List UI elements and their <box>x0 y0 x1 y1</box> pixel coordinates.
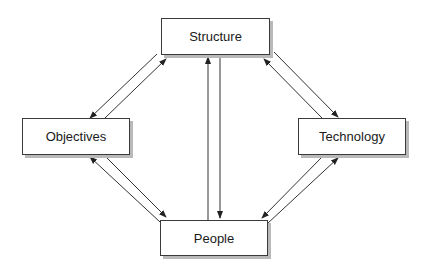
node-objectives: Objectives <box>22 118 130 155</box>
arrow-technology-to-people <box>262 157 322 218</box>
arrow-objectives-to-structure <box>105 59 166 118</box>
node-label: Objectives <box>46 129 107 144</box>
node-label: Technology <box>319 129 385 144</box>
node-structure: Structure <box>161 18 270 55</box>
arrow-objectives-to-people <box>106 157 166 217</box>
arrow-people-to-technology <box>268 158 338 223</box>
arrow-technology-to-structure <box>264 59 322 118</box>
arrow-structure-to-objectives <box>90 54 157 118</box>
arrow-people-to-objectives <box>90 157 160 222</box>
node-label: Structure <box>189 29 242 44</box>
node-label: People <box>194 231 234 246</box>
node-people: People <box>160 220 268 256</box>
arrow-structure-to-technology <box>274 52 338 117</box>
node-technology: Technology <box>298 118 406 155</box>
